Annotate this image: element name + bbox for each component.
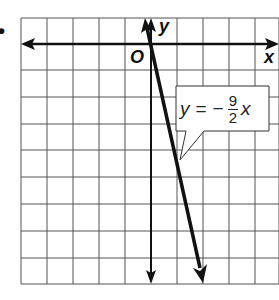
y-axis-label: y bbox=[159, 16, 169, 37]
equation-minus: − bbox=[213, 98, 224, 120]
equation-equals: = bbox=[196, 98, 207, 120]
fraction-numerator: 9 bbox=[228, 93, 238, 110]
origin-label: O bbox=[130, 47, 144, 68]
coordinate-plane bbox=[0, 0, 279, 300]
fraction-denominator: 2 bbox=[229, 110, 237, 126]
x-axis-label: x bbox=[264, 47, 274, 68]
problem-bullet: • bbox=[0, 20, 5, 43]
equation-lhs: y bbox=[180, 98, 190, 120]
equation-var: x bbox=[241, 98, 251, 120]
equation-text: y = − 9 2 x bbox=[180, 88, 251, 130]
equation-fraction: 9 2 bbox=[228, 93, 238, 126]
